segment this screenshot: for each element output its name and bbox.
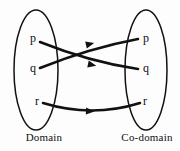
domain-element-r: r — [35, 95, 39, 107]
figure-canvas: p q r p q r Domain Co-domain — [0, 0, 180, 151]
arrowhead-q-to-p — [85, 40, 95, 49]
domain-ellipse — [14, 10, 58, 130]
arrowhead-p-to-q — [87, 60, 97, 69]
domain-caption: Domain — [14, 131, 74, 143]
domain-element-p: p — [30, 32, 36, 44]
codomain-element-q: q — [143, 62, 149, 74]
arrowhead-r-to-r — [86, 107, 95, 115]
codomain-element-p: p — [143, 32, 149, 44]
codomain-element-r: r — [143, 95, 147, 107]
arrow-r-to-r — [43, 103, 140, 111]
domain-element-q: q — [30, 62, 36, 74]
mapping-diagram — [0, 0, 180, 151]
codomain-caption: Co-domain — [116, 131, 178, 143]
